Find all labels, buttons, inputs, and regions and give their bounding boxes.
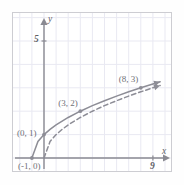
point-label-8-3: (8, 3) — [119, 74, 139, 84]
figure-frame: 5 9 y x (-1, 0) (0, 1) (3, 2) (8, 3) — [12, 12, 172, 172]
point-label-3-2: (3, 2) — [58, 98, 78, 108]
point-label-neg1-0: (-1, 0) — [18, 161, 41, 171]
point-label-0-1: (0, 1) — [17, 128, 37, 138]
y-axis-tick-label: 5 — [34, 34, 39, 44]
x-axis-name: x — [162, 146, 166, 156]
figure-canvas: 5 9 y x (-1, 0) (0, 1) (3, 2) (8, 3) — [0, 0, 184, 185]
y-axis-name: y — [48, 14, 52, 24]
x-axis-tick-label: 9 — [150, 161, 155, 171]
